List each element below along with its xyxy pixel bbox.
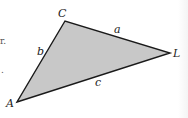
page-edge-shadow (178, 0, 188, 118)
side-label-a: a (114, 23, 121, 36)
side-label-b: b (37, 45, 44, 58)
margin-text-fragment: . (1, 65, 4, 75)
side-label-c: c (95, 76, 101, 89)
triangle-diagram: C L A a b c r. . (0, 0, 188, 118)
vertex-label-a: A (5, 97, 14, 110)
margin-text-fragment: r. (0, 36, 6, 46)
triangle-abc (17, 21, 170, 102)
vertex-label-c: C (58, 7, 67, 20)
